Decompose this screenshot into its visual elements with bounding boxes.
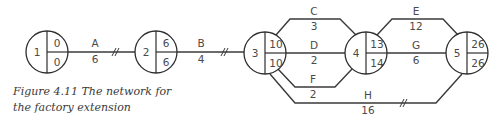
node-4-late: 14 (370, 57, 384, 69)
activity-h-name: H (364, 89, 372, 101)
node-3: 3 10 10 (244, 32, 286, 74)
node-1-id: 1 (34, 46, 41, 58)
node-1-late: 0 (54, 56, 61, 68)
activity-g-duration: 6 (413, 54, 420, 66)
activity-g-name: G (412, 39, 420, 51)
activity-a-duration: 6 (92, 53, 99, 65)
node-2: 2 6 6 (135, 31, 177, 73)
activity-e-name: E (413, 5, 420, 17)
activity-h-duration: 16 (361, 104, 375, 116)
node-3-id: 3 (252, 47, 259, 59)
activity-f-duration: 2 (310, 88, 317, 100)
activity-f-name: F (310, 73, 316, 85)
caption-line-2: the factory extension (13, 100, 171, 116)
node-4: 4 13 14 (345, 32, 387, 74)
node-4-id: 4 (353, 47, 360, 59)
node-3-early: 10 (269, 38, 282, 50)
activity-d-name: D (310, 39, 318, 51)
node-1: 1 0 0 (26, 31, 68, 73)
node-2-early: 6 (163, 37, 170, 49)
node-4-early: 13 (370, 38, 383, 50)
node-2-id: 2 (143, 46, 150, 58)
activity-c-duration: 3 (311, 20, 318, 32)
activity-a-name: A (91, 37, 99, 49)
node-5-early: 26 (471, 38, 485, 50)
activity-e-duration: 12 (409, 20, 422, 32)
node-5-id: 5 (454, 47, 461, 59)
node-5-late: 26 (471, 57, 485, 69)
node-2-late: 6 (163, 56, 170, 68)
activity-b-name: B (197, 37, 204, 49)
activity-d-duration: 2 (311, 54, 318, 66)
figure-caption: Figure 4.11 The network for the factory … (13, 84, 171, 116)
node-1-early: 0 (54, 37, 61, 49)
node-5: 5 26 26 (446, 32, 488, 74)
activity-c-name: C (310, 5, 317, 17)
caption-line-1: Figure 4.11 The network for (13, 84, 171, 100)
activity-b-duration: 4 (198, 53, 205, 65)
node-3-late: 10 (269, 57, 282, 69)
